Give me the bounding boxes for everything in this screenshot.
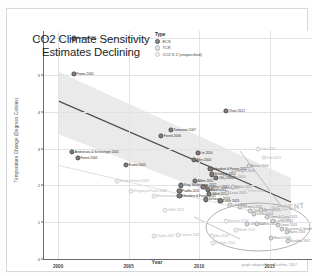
data-point-label: Hegerl 2006 bbox=[237, 169, 254, 173]
data-point-label: Aldrin 2012 bbox=[198, 179, 214, 183]
data-point-label: Forest 2006 bbox=[164, 134, 181, 138]
gridline-vertical bbox=[58, 31, 59, 259]
data-point-label: Tomassini 2007 bbox=[174, 128, 196, 132]
y-axis-label: Temperature Change (Degrees Celsius) bbox=[14, 98, 19, 183]
legend-label-ecs: ECS bbox=[162, 39, 170, 44]
y-tick-label: 4 bbox=[38, 109, 40, 114]
data-point-label: Frame 2005 bbox=[76, 72, 93, 76]
x-tick-label: 2010 bbox=[194, 264, 204, 269]
chart-title: CO2 Climate Sensitivity Estimates Declin… bbox=[21, 33, 161, 59]
data-point-label: Allen 2000 bbox=[196, 158, 211, 162]
data-point-label: Lindzen 2011 bbox=[181, 233, 200, 237]
data-point-label: Gregory & Forest 2008 bbox=[134, 189, 166, 193]
y-tick-label: 0 bbox=[38, 257, 40, 262]
data-point-label: Andronova & Schlesinger 2001 bbox=[75, 150, 119, 154]
y-tick-mark bbox=[41, 75, 44, 76]
legend-label-co2: CO2 X 2 (unspecified) bbox=[162, 52, 201, 57]
data-point-label: Otto 2013 bbox=[250, 189, 264, 193]
legend-item-co2[interactable]: CO2 X 2 (unspecified) bbox=[155, 52, 233, 57]
data-point-label: Chylek 2007 bbox=[157, 234, 175, 238]
data-point-label: Lewis 2013 bbox=[230, 191, 246, 195]
data-point-label: Knutti & Forest 2005 bbox=[120, 179, 149, 183]
data-point-label: Bates 2016 bbox=[289, 230, 305, 234]
y-tick-label: 3 bbox=[38, 146, 40, 151]
data-point-label: Spencer 2014 bbox=[229, 219, 249, 223]
legend-marker-co2-icon bbox=[155, 52, 160, 57]
legend-title: Type bbox=[155, 32, 233, 37]
x-tick-label: 2000 bbox=[53, 264, 63, 269]
data-point-label: Annan 2006 bbox=[251, 164, 268, 168]
y-tick-mark bbox=[41, 111, 44, 112]
data-point-label: Gillett 2012 bbox=[168, 208, 184, 212]
chart-screenshot: Gregory 2002Frame 2005Olson 2012Tomassin… bbox=[0, 0, 312, 276]
legend-item-ecs[interactable]: ECS bbox=[155, 39, 233, 44]
data-point-label: Loehle 2015 bbox=[260, 222, 278, 226]
y-tick-mark bbox=[41, 148, 44, 149]
y-tick-mark bbox=[41, 222, 44, 223]
data-point-label: Frame 2005 bbox=[128, 163, 145, 167]
data-point-label: Olson 2012 bbox=[229, 109, 245, 113]
data-point-label: Scafetta 2017 bbox=[291, 239, 311, 243]
data-point-label: Harde 2014 bbox=[238, 228, 255, 232]
y-tick-mark bbox=[41, 185, 44, 186]
data-point-label: Forest 2002 bbox=[80, 156, 97, 160]
y-tick-label: 1 bbox=[38, 220, 40, 225]
source-caption: graph adapted from Scafetta, 2017 bbox=[241, 263, 297, 267]
data-point-label: Lindzen 2014 bbox=[216, 241, 235, 245]
y-tick-label: 2 bbox=[38, 183, 40, 188]
data-point-label: Lin 2010 bbox=[200, 151, 212, 155]
x-tick-label: 2005 bbox=[124, 264, 134, 269]
data-point-label: Padilla 2011 bbox=[182, 189, 199, 193]
legend-label-tcr: TCR bbox=[162, 45, 170, 50]
legend: Type ECS TCR CO2 X 2 (unspecified) bbox=[155, 32, 233, 58]
x-axis-label: Year bbox=[152, 259, 163, 265]
recent-annotation: RECENT bbox=[271, 201, 305, 214]
y-tick-label: 5 bbox=[38, 73, 40, 78]
legend-marker-ecs-icon bbox=[155, 39, 160, 44]
data-point-label: Otto 2013 bbox=[261, 147, 275, 151]
y-tick-mark bbox=[41, 259, 44, 260]
legend-marker-tcr-icon bbox=[155, 45, 160, 50]
gridline-horizontal bbox=[44, 112, 312, 113]
data-point-label: Bender 2010 bbox=[227, 175, 245, 179]
plot-area: Gregory 2002Frame 2005Olson 2012Tomassin… bbox=[43, 31, 312, 260]
gridline-vertical bbox=[199, 31, 200, 259]
legend-item-tcr[interactable]: TCR bbox=[155, 45, 233, 50]
gridline-vertical bbox=[129, 31, 130, 259]
data-point-label: Idso 2008 bbox=[214, 234, 228, 238]
data-point-label: Otto 2013 bbox=[267, 156, 281, 160]
figure-frame: Gregory 2002Frame 2005Olson 2012Tomassin… bbox=[6, 8, 308, 272]
